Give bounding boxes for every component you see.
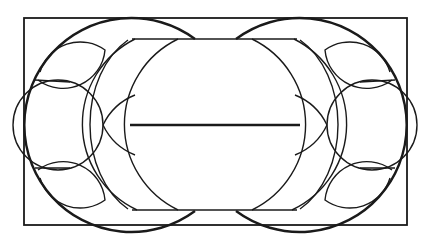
outer-frame [24,18,407,225]
left-upper-connector [103,95,135,125]
right-upper-connector [295,95,327,125]
right-mid-circle [327,80,417,170]
left-arc-2 [90,40,128,209]
left-lower-connector [103,125,135,155]
geometric-diagram [0,0,429,246]
right-lower-connector [295,125,327,155]
